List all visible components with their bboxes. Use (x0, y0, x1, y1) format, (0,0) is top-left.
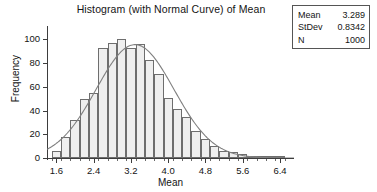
histogram-bar (80, 99, 89, 158)
y-axis-tick-label: 40 (29, 106, 40, 116)
x-axis-minor-tick (257, 159, 258, 161)
x-axis-tick (205, 159, 206, 163)
x-axis-minor-tick (80, 159, 81, 161)
stat-label-mean: Mean (298, 9, 321, 21)
y-axis-tick-label: 60 (29, 82, 40, 92)
x-axis-minor-tick (266, 159, 267, 161)
x-axis-tick (243, 159, 244, 163)
histogram-bar (145, 60, 154, 158)
histogram-bar (247, 156, 256, 158)
x-axis-minor-tick (191, 159, 192, 161)
x-axis-minor-tick (52, 159, 53, 161)
histogram-bar (182, 117, 191, 158)
histogram-bars (47, 30, 294, 158)
histogram-bar (275, 156, 284, 158)
histogram-bar (210, 146, 219, 158)
histogram-bar (61, 137, 70, 158)
x-axis-minor-tick (61, 159, 62, 161)
histogram-bar (98, 48, 107, 158)
x-axis-minor-tick (210, 159, 211, 161)
x-axis-minor-tick (229, 159, 230, 161)
x-axis-minor-tick (285, 159, 286, 161)
stat-value-mean: 3.289 (342, 9, 365, 21)
y-axis-tick-label: 80 (29, 58, 40, 68)
histogram-bar (52, 151, 61, 158)
stat-label-n: N (298, 34, 305, 46)
histogram-bar (89, 93, 98, 158)
x-axis-tick (56, 159, 57, 163)
histogram-bar (257, 156, 266, 158)
histogram-bar (266, 156, 275, 158)
histogram-bar (117, 39, 126, 158)
x-axis-minor-tick (108, 159, 109, 161)
x-axis-tick-label: 2.4 (74, 165, 114, 176)
x-axis-tick-label: 3.2 (111, 165, 151, 176)
x-axis-tick-label: 4.0 (148, 165, 188, 176)
stat-label-stdev: StDev (298, 21, 323, 33)
x-axis-minor-tick (164, 159, 165, 161)
x-axis-minor-tick (136, 159, 137, 161)
x-axis-minor-tick (98, 159, 99, 161)
x-axis-tick-label: 5.6 (223, 165, 263, 176)
x-axis-minor-tick (70, 159, 71, 161)
x-axis-minor-tick (238, 159, 239, 161)
x-axis-minor-tick (117, 159, 118, 161)
x-axis-minor-tick (275, 159, 276, 161)
x-axis-minor-tick (247, 159, 248, 161)
x-axis-tick-label: 4.8 (185, 165, 225, 176)
x-axis-minor-tick (145, 159, 146, 161)
histogram-bar (126, 48, 135, 158)
histogram-bar (191, 131, 200, 158)
x-axis-minor-tick (219, 159, 220, 161)
histogram-bar (108, 43, 117, 158)
histogram-bar (238, 154, 247, 158)
histogram-bar (70, 120, 79, 158)
histogram-chart: Histogram (with Normal Curve) of Mean Me… (0, 0, 377, 192)
x-axis-minor-tick (126, 159, 127, 161)
x-axis-tick-label: 6.4 (260, 165, 300, 176)
x-axis-tick (280, 159, 281, 163)
x-axis-tick-label: 1.6 (36, 165, 76, 176)
histogram-bar (136, 44, 145, 158)
x-axis-minor-tick (154, 159, 155, 161)
histogram-bar (173, 109, 182, 158)
chart-title: Histogram (with Normal Curve) of Mean (56, 3, 286, 15)
x-axis-minor-tick (89, 159, 90, 161)
histogram-bar (201, 139, 210, 158)
y-axis-tick-label: 100 (24, 34, 40, 44)
histogram-bar (164, 98, 173, 158)
y-axis-tick-label: 20 (29, 129, 40, 139)
x-axis-minor-tick (182, 159, 183, 161)
y-axis-tick (43, 158, 47, 159)
x-axis-tick (131, 159, 132, 163)
y-axis-tick-label: 0 (35, 153, 40, 163)
x-axis-minor-tick (201, 159, 202, 161)
x-axis-tick (168, 159, 169, 163)
stat-value-n: 1000 (345, 34, 365, 46)
stat-row: N 1000 (298, 34, 365, 46)
x-axis-tick (94, 159, 95, 163)
x-axis-minor-tick (173, 159, 174, 161)
stat-row: StDev 0.8342 (298, 21, 365, 33)
stat-row: Mean 3.289 (298, 9, 365, 21)
histogram-bar (219, 151, 228, 158)
stat-value-stdev: 0.8342 (337, 21, 365, 33)
statistics-summary-box: Mean 3.289 StDev 0.8342 N 1000 (292, 5, 370, 49)
histogram-bar (229, 152, 238, 158)
x-axis-title: Mean (47, 177, 294, 188)
histogram-bar (154, 74, 163, 158)
y-axis-title: Frequency (10, 39, 21, 119)
